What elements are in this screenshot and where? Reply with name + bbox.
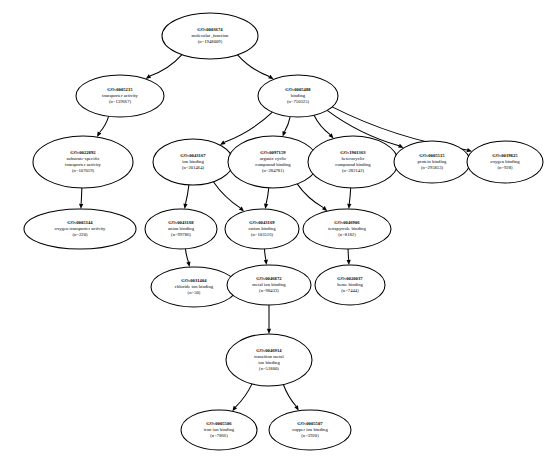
edge-arrowhead xyxy=(220,140,226,145)
graph-node-go0046914[interactable]: GO:0046914transition metalion binding(n=… xyxy=(226,334,312,386)
graph-edge xyxy=(314,115,330,134)
graph-node-go0005507[interactable]: GO:0005507copper ion binding(n=3920) xyxy=(269,410,351,450)
node-layer: GO:0003674molecular_function(n=1948009)G… xyxy=(24,13,543,450)
node-count: (n=201464) xyxy=(182,165,205,170)
node-go-id: GO:0043167 xyxy=(180,153,206,158)
node-label: copper ion binding xyxy=(292,427,328,432)
graph-node-go0031404[interactable]: GO:0031404chloride ion binding(n=50) xyxy=(151,267,237,307)
graph-edge xyxy=(297,184,323,208)
node-go-id: GO:0046914 xyxy=(256,348,282,353)
node-label: substrate-specific xyxy=(66,156,99,161)
graph-node-go0022892[interactable]: GO:0022892substrate-specifictransporter … xyxy=(33,136,133,188)
node-go-id: GO:0005215 xyxy=(107,87,133,92)
node-go-id: GO:0005506 xyxy=(206,421,232,426)
graph-edge xyxy=(150,55,182,76)
node-go-id: GO:0020037 xyxy=(337,276,363,281)
edge-arrowhead xyxy=(267,329,271,334)
node-go-id: GO:0005515 xyxy=(419,153,445,158)
edge-arrowhead xyxy=(398,144,404,148)
node-label: oxygen transporter activity xyxy=(55,226,106,231)
graph-node-go0020037[interactable]: GO:0020037heme binding(n=7444) xyxy=(315,265,385,305)
node-count: (n=8182) xyxy=(338,232,356,237)
node-count: (n=103516) xyxy=(251,232,274,237)
node-label: heterocyclic xyxy=(341,156,364,161)
node-count: (n=284781) xyxy=(262,168,285,173)
node-go-id: GO:0046872 xyxy=(256,276,282,281)
graph-node-go0005344[interactable]: GO:0005344oxygen transporter activity(n=… xyxy=(24,209,136,249)
node-count: (n=7866) xyxy=(210,433,228,438)
graph-node-go0046906[interactable]: GO:0046906tetrapyrrole binding(n=8182) xyxy=(303,209,391,249)
diagram-canvas: GO:0003674molecular_function(n=1948009)G… xyxy=(0,0,550,459)
graph-node-go0003674[interactable]: GO:0003674molecular_function(n=1948009) xyxy=(162,13,258,59)
graph-edge xyxy=(264,249,265,260)
edge-arrowhead xyxy=(264,260,268,265)
graph-node-go0005515[interactable]: GO:0005515protein binding(n=295853) xyxy=(394,141,470,183)
node-label: molecular_function xyxy=(192,33,230,38)
node-label: ion binding xyxy=(182,159,204,164)
node-count: (n=3920) xyxy=(301,433,319,438)
edge-arrowhead xyxy=(97,131,101,137)
node-count: (n=107019) xyxy=(72,168,95,173)
graph-edge xyxy=(100,116,109,132)
node-label: transporter activity xyxy=(102,93,138,98)
graph-node-go0046872[interactable]: GO:0046872metal ion binding(n=98433) xyxy=(227,265,311,305)
edge-arrowhead xyxy=(146,74,151,79)
node-label: compound binding xyxy=(255,162,291,167)
graph-edge xyxy=(81,188,82,204)
graph-edge xyxy=(235,384,252,407)
node-count: (n=750325) xyxy=(287,99,310,104)
node-go-id: GO:1901363 xyxy=(340,150,366,155)
node-go-id: GO:0031404 xyxy=(181,278,207,283)
graph-node-go0043167[interactable]: GO:0043167ion binding(n=201464) xyxy=(153,139,233,185)
node-label: heme binding xyxy=(337,282,363,287)
graph-edge xyxy=(283,385,296,407)
node-label: oxygen binding xyxy=(490,159,520,164)
graph-edge xyxy=(284,117,290,132)
node-go-id: GO:0005507 xyxy=(297,421,323,426)
node-go-id: GO:0019825 xyxy=(492,153,518,158)
node-label: cation binding xyxy=(248,226,276,231)
node-go-id: GO:0003674 xyxy=(197,27,223,32)
node-go-id: GO:0043168 xyxy=(168,220,194,225)
node-label: organic cyclic xyxy=(260,156,287,161)
edge-arrowhead xyxy=(294,405,298,411)
graph-node-go0019825[interactable]: GO:0019825oxygen binding(n=928) xyxy=(467,141,543,183)
node-go-id: GO:0043169 xyxy=(249,220,275,225)
graph-node-go0097159[interactable]: GO:0097159organic cycliccompound binding… xyxy=(228,136,318,188)
node-label: anion binding xyxy=(168,226,195,231)
graph-edge xyxy=(348,249,349,260)
edge-arrowhead xyxy=(347,260,351,265)
node-label: iron ion binding xyxy=(204,427,235,432)
node-count: (n=220) xyxy=(72,232,88,237)
graph-edge xyxy=(349,188,350,204)
graph-edge xyxy=(266,188,269,204)
edge-arrowhead xyxy=(347,204,351,209)
node-label: transition metal xyxy=(254,354,284,359)
go-dag-graph: GO:0003674molecular_function(n=1948009)G… xyxy=(0,0,550,459)
graph-node-go0043168[interactable]: GO:0043168anion binding(n=99786) xyxy=(145,209,217,249)
graph-node-go1901363[interactable]: GO:1901363heterocycliccompound binding(n… xyxy=(308,136,398,188)
graph-node-go0005488[interactable]: GO:0005488binding(n=750325) xyxy=(258,75,338,117)
node-count: (n=1948009) xyxy=(198,39,223,44)
graph-node-go0005506[interactable]: GO:0005506iron ion binding(n=7866) xyxy=(181,410,257,450)
edge-arrowhead xyxy=(466,148,472,152)
graph-edge xyxy=(185,249,188,262)
graph-node-go0043169[interactable]: GO:0043169cation binding(n=103516) xyxy=(225,209,299,249)
graph-edge xyxy=(213,182,240,208)
edge-arrowhead xyxy=(79,204,83,209)
node-go-id: GO:0046906 xyxy=(334,220,360,225)
node-go-id: GO:0022892 xyxy=(70,150,96,155)
node-go-id: GO:0097159 xyxy=(260,150,286,155)
node-count: (n=98433) xyxy=(259,288,279,293)
edge-arrowhead xyxy=(268,75,273,80)
node-label: metal ion binding xyxy=(252,282,286,287)
node-count: (n=99786) xyxy=(171,232,191,237)
node-count: (n=928) xyxy=(497,165,513,170)
node-label: binding xyxy=(291,93,306,98)
node-count: (n=139667) xyxy=(109,99,132,104)
node-count: (n=295853) xyxy=(421,165,444,170)
edge-arrowhead xyxy=(283,131,287,137)
graph-node-go0005215[interactable]: GO:0005215transporter activity(n=139667) xyxy=(76,75,164,117)
node-label: chloride ion binding xyxy=(175,284,214,289)
node-count: (n=50) xyxy=(188,290,201,295)
